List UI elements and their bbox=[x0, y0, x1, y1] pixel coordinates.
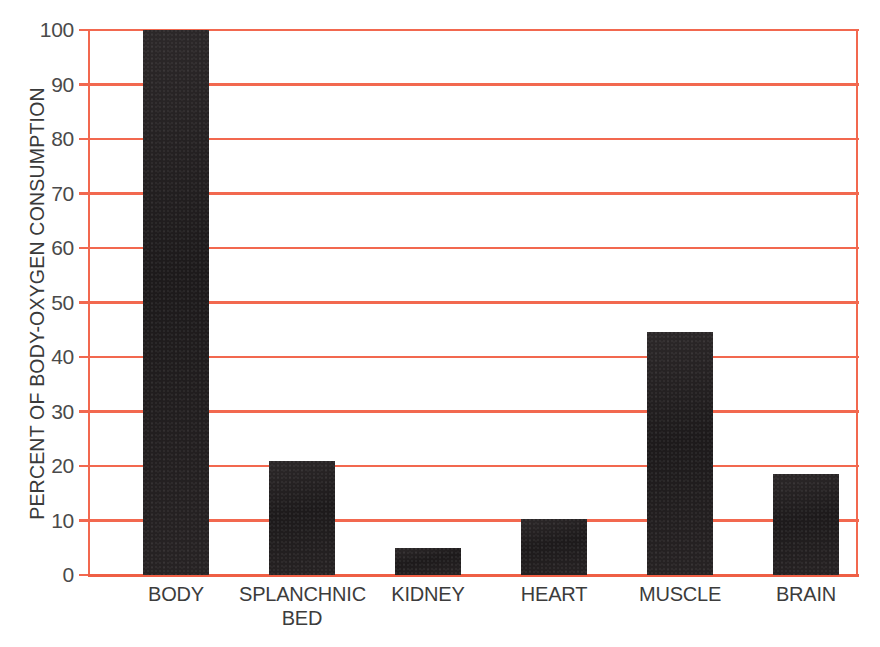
y-axis-title: PERCENT OF BODY-OXYGEN CONSUMPTION bbox=[26, 24, 49, 584]
y-tick-label: 0 bbox=[63, 563, 74, 587]
y-tick-label: 20 bbox=[51, 454, 74, 478]
x-axis-label: BODY bbox=[113, 583, 239, 607]
figure-caption bbox=[36, 634, 848, 647]
y-tick-label: 90 bbox=[51, 73, 74, 97]
tick-mark-icon bbox=[79, 29, 88, 32]
y-tick-label: 60 bbox=[51, 236, 74, 260]
bar bbox=[773, 474, 839, 575]
x-axis-label: HEART bbox=[491, 583, 617, 607]
bar bbox=[647, 332, 713, 575]
tick-mark-icon bbox=[79, 519, 88, 522]
y-tick-label: 30 bbox=[51, 400, 74, 424]
bar bbox=[521, 519, 587, 575]
y-tick-label: 50 bbox=[51, 291, 74, 315]
bar bbox=[143, 30, 209, 575]
tick-mark-icon bbox=[79, 138, 88, 141]
bar bbox=[269, 461, 335, 575]
plot-area: 0102030405060708090100 bbox=[88, 30, 858, 575]
tick-mark-icon bbox=[79, 465, 88, 468]
x-axis-label: BRAIN bbox=[743, 583, 869, 607]
tick-mark-icon bbox=[79, 83, 88, 86]
bar bbox=[395, 548, 461, 575]
tick-mark-icon bbox=[79, 301, 88, 304]
x-axis-label: KIDNEY bbox=[365, 583, 491, 607]
tick-mark-icon bbox=[79, 192, 88, 195]
y-tick-label: 100 bbox=[40, 18, 74, 42]
bar-chart-figure: PERCENT OF BODY-OXYGEN CONSUMPTION 01020… bbox=[0, 0, 880, 647]
y-tick-label: 40 bbox=[51, 345, 74, 369]
x-axis-label: SPLANCHNIC BED bbox=[239, 583, 365, 630]
y-tick-label: 80 bbox=[51, 127, 74, 151]
tick-mark-icon bbox=[79, 574, 88, 577]
y-tick-label: 10 bbox=[51, 509, 74, 533]
tick-mark-icon bbox=[79, 410, 88, 413]
y-tick-label: 70 bbox=[51, 182, 74, 206]
x-axis-label: MUSCLE bbox=[617, 583, 743, 607]
tick-mark-icon bbox=[79, 247, 88, 250]
tick-mark-icon bbox=[79, 356, 88, 359]
